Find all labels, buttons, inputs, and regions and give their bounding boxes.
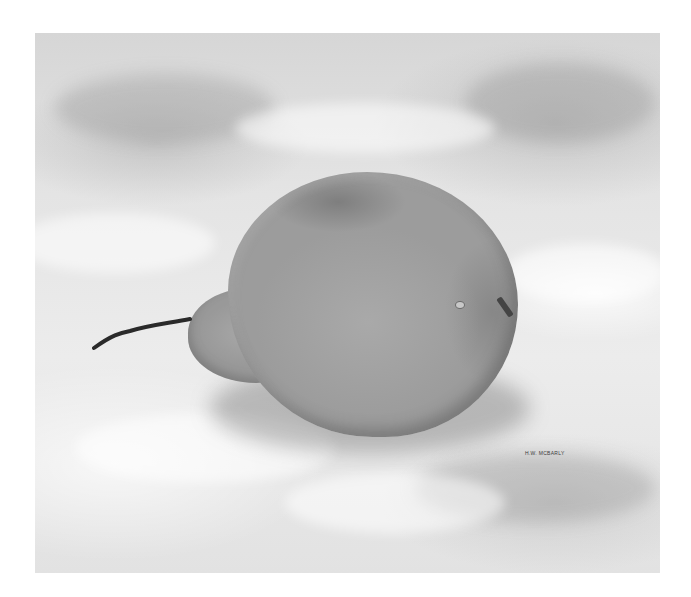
pear-stem (90, 315, 192, 351)
artist-signature: H.W. McBARLY (525, 450, 565, 456)
cloth-fold (235, 103, 495, 153)
pear-blemish (455, 301, 465, 309)
cloth-fold (505, 243, 660, 303)
pear-drawing: H.W. McBARLY (35, 33, 660, 573)
cloth-fold (285, 473, 505, 533)
cloth-fold (35, 213, 215, 273)
